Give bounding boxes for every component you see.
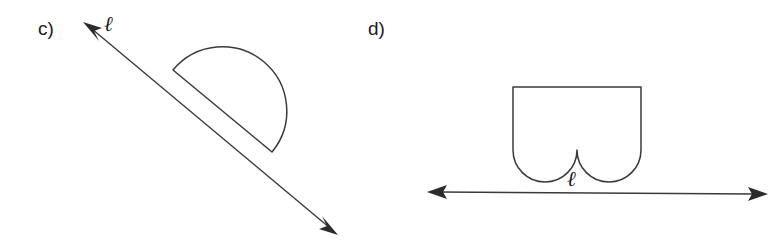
panel-c-line-l bbox=[83, 22, 338, 235]
panel-c: c) ℓ bbox=[38, 12, 338, 235]
panel-c-arrowhead-start bbox=[83, 22, 102, 41]
panel-d-line-label: ℓ bbox=[567, 167, 576, 191]
panel-d-line-segment bbox=[440, 192, 756, 194]
panel-d-line-l bbox=[427, 185, 768, 201]
panel-c-line-segment bbox=[92, 29, 330, 228]
panel-d: d) ℓ bbox=[368, 18, 768, 201]
panel-c-line-label: ℓ bbox=[104, 12, 113, 36]
figure-root: c) ℓ d) ℓ bbox=[0, 0, 783, 247]
panel-d-label: d) bbox=[368, 18, 385, 39]
panel-c-semicircle-shape bbox=[173, 47, 287, 152]
panel-c-arrowhead-end bbox=[319, 216, 338, 235]
geometry-figure-canvas: c) ℓ d) ℓ bbox=[0, 0, 783, 247]
panel-c-label: c) bbox=[38, 18, 54, 39]
panel-d-notched-rectangle-shape bbox=[513, 87, 641, 182]
